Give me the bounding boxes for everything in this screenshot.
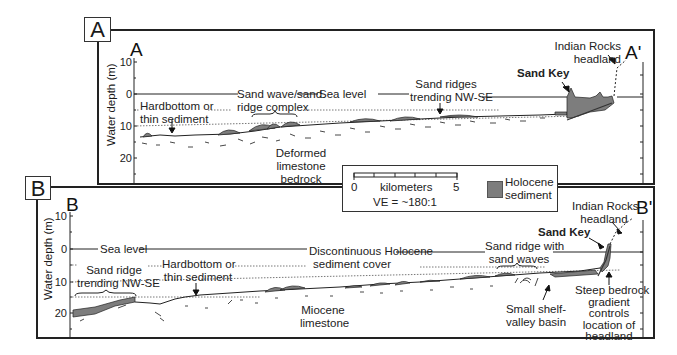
annotation-a-sea-level: Sea level	[319, 88, 366, 101]
annotation-b-shelf-valley: Small shelf- valley basin	[505, 303, 567, 329]
holocene-label: Holocene sediment	[505, 176, 554, 202]
annotation-b-indian-rocks: Indian Rocks headland	[572, 200, 636, 226]
scale-start: 0	[351, 181, 357, 194]
annotation-b-hardbottom: Hardbottom or thin sediment	[162, 258, 234, 284]
annotation-a-hardbottom: Hardbottom or thin sediment	[140, 100, 214, 126]
annotation-a-indian-rocks: Indian Rocks headland	[549, 40, 621, 66]
vertical-exaggeration: VE = ~180:1	[373, 196, 437, 209]
scale-unit: kilometers	[380, 181, 432, 194]
annotation-a-sand-key: Sand Key	[517, 67, 569, 80]
annotation-b-sand-key: Sand Key	[538, 226, 590, 239]
annotation-b-sand-ridge-waves: Sand ridge with sand waves	[485, 240, 553, 266]
annotation-b-discontinuous: Discontinuous Holocene sediment cover	[309, 245, 395, 271]
holocene-swatch	[487, 181, 503, 198]
annotation-b-sea-level: Sea level	[100, 243, 147, 256]
scale-end: 5	[453, 181, 459, 194]
annotation-b-sand-ridge: Sand ridge trending NW-SE	[77, 264, 151, 290]
annotation-a-deformed: Deformed limestone bedrock	[271, 147, 331, 186]
annotation-a-sand-ridges: Sand ridges trending NW-SE	[410, 78, 482, 104]
annotation-a-sand-wave: Sand wave/sand ridge complex	[237, 88, 299, 114]
legend: 0 kilometers 5 VE = ~180:1 Holocene sedi…	[342, 165, 558, 212]
annotation-b-miocene: Miocene limestone	[300, 304, 346, 330]
annotation-b-steep-bedrock: Steep bedrock gradient controls location…	[575, 285, 643, 343]
